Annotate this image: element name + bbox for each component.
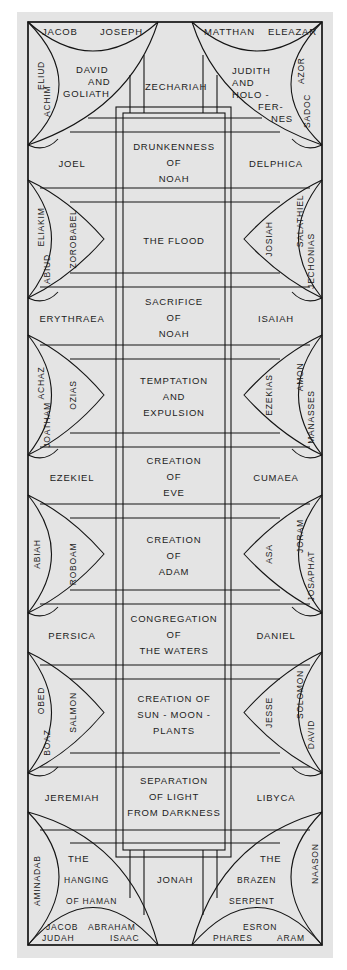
ancestor-label: SALMON bbox=[68, 692, 78, 733]
ceiling-panel-label: SACRIFICE bbox=[145, 296, 203, 307]
scene-label: AND bbox=[232, 77, 254, 88]
ancestor-label: EZEKIAS bbox=[264, 374, 274, 416]
ancestor-label: JECHONIAS bbox=[306, 233, 316, 289]
spandrel-edge bbox=[292, 292, 322, 301]
ancestor-label: DAVID bbox=[306, 720, 316, 749]
scene-label: HOLO - bbox=[232, 89, 270, 100]
spandrel-edge bbox=[28, 449, 58, 458]
ceiling-panel-label: FROM DARKNESS bbox=[127, 807, 220, 818]
prophet-sibyl-label: PERSICA bbox=[48, 630, 95, 641]
ancestor-label: ABIAH bbox=[32, 539, 42, 569]
ceiling-panel-label: OF bbox=[167, 629, 182, 640]
spandrel-edge bbox=[292, 767, 322, 776]
ceiling-panel-label: ADAM bbox=[159, 566, 190, 577]
ceiling-panel-label: NOAH bbox=[159, 328, 190, 339]
ancestor-label: NAASON bbox=[310, 843, 320, 884]
ancestor-label: JOSIAH bbox=[264, 221, 274, 257]
prophet-jonah: JONAH bbox=[157, 874, 193, 885]
ancestor-label: OZIAS bbox=[68, 380, 78, 410]
ancestor-label: SOLOMON bbox=[295, 670, 305, 719]
prophet-sibyl-label: DELPHICA bbox=[249, 158, 303, 169]
prophet-zechariah: ZECHARIAH bbox=[145, 81, 207, 92]
scene-label: GOLIATH bbox=[63, 88, 110, 99]
bay-texts: DRUNKENNESSOFNOAHJOELDELPHICATHE FLOODEL… bbox=[32, 141, 316, 818]
ancestor-label: ACHIM bbox=[42, 86, 52, 117]
prophet-sibyl-label: JOEL bbox=[59, 158, 86, 169]
prophet-sibyl-label: JEREMIAH bbox=[45, 792, 99, 803]
ceiling-panel-label: OF bbox=[167, 471, 182, 482]
spandrel-edge bbox=[28, 292, 58, 301]
ancestor-label: MANASSES bbox=[306, 390, 316, 444]
ceiling-panel-label: EXPULSION bbox=[143, 407, 205, 418]
ancestor-label: ELEAZAR bbox=[268, 26, 317, 37]
ancestor-label: BOAZ bbox=[42, 729, 52, 755]
spandrel-edge bbox=[292, 607, 322, 616]
scene-label: NES bbox=[271, 113, 293, 124]
ancestor-label: OBED bbox=[36, 687, 46, 714]
ceiling-panel-label: SUN - MOON - bbox=[137, 709, 210, 720]
ancestor-label: MATTHAN bbox=[204, 26, 255, 37]
ceiling-panel-label: NOAH bbox=[159, 173, 190, 184]
ancestor-label: AMON bbox=[295, 363, 305, 392]
ceiling-panel-label: SEPARATION bbox=[140, 775, 208, 786]
spandrel-edge bbox=[292, 449, 322, 458]
ancestor-label: ELIAKIM bbox=[36, 207, 46, 246]
ancestor-label: AMINADAB bbox=[32, 855, 42, 906]
ancestor-label: ACHAZ bbox=[36, 367, 46, 400]
scene-label: THE bbox=[68, 853, 89, 864]
prophet-sibyl-label: ERYTHRAEA bbox=[39, 313, 104, 324]
ancestor-label: JUDAH bbox=[42, 933, 74, 943]
scene-label: FER- bbox=[258, 101, 283, 112]
ancestor-label: ISAAC bbox=[110, 933, 140, 943]
spandrel-edge bbox=[28, 607, 58, 616]
ceiling-panel-label: OF bbox=[167, 550, 182, 561]
prophet-sibyl-label: LIBYCA bbox=[257, 792, 296, 803]
ceiling-plan-diagram: JACOB JOSEPH DAVID AND GOLIATH ELIUD ACH… bbox=[0, 0, 347, 970]
ancestor-label: JOATHAM bbox=[42, 402, 52, 448]
prophet-sibyl-label: EZEKIEL bbox=[50, 472, 95, 483]
ceiling-panel-label: CREATION bbox=[147, 534, 202, 545]
scene-label: JUDITH bbox=[232, 65, 271, 76]
scene-label: AND bbox=[88, 76, 110, 87]
ancestor-label: ZOROBABEL bbox=[68, 209, 78, 268]
ancestor-label: JESSE bbox=[264, 697, 274, 728]
ceiling-panel-label: DRUNKENNESS bbox=[133, 141, 215, 152]
ancestor-label: AZOR bbox=[296, 57, 306, 84]
ceiling-panel-label: OF bbox=[167, 157, 182, 168]
ancestor-label: ARAM bbox=[277, 933, 305, 943]
scene-label: SERPENT bbox=[229, 896, 275, 906]
ancestor-label: PHARES bbox=[213, 933, 253, 943]
scene-label: BRAZEN bbox=[237, 875, 276, 885]
bottom-texts: THE HANGING OF HAMAN AMINADAB JACOB ABRA… bbox=[32, 843, 320, 943]
ceiling-panel-label: OF LIGHT bbox=[149, 791, 199, 802]
ancestor-label: JOSEPH bbox=[100, 26, 143, 37]
ancestor-label: SADOC bbox=[302, 94, 312, 128]
prophet-sibyl-label: ISAIAH bbox=[258, 313, 294, 324]
prophet-sibyl-label: DANIEL bbox=[256, 630, 295, 641]
scene-label: DAVID bbox=[76, 64, 108, 75]
ceiling-panel-label: THE WATERS bbox=[139, 645, 208, 656]
ancestor-label: ABRAHAM bbox=[88, 922, 136, 932]
ceiling-panel-label: THE FLOOD bbox=[143, 235, 205, 246]
ancestor-label: ASA bbox=[264, 544, 274, 563]
ceiling-panel-label: CREATION bbox=[147, 455, 202, 466]
scene-label: HANGING bbox=[64, 875, 109, 885]
ancestor-label: ESRON bbox=[243, 922, 277, 932]
ancestor-label: ABIUD bbox=[42, 254, 52, 284]
ceiling-panel-label: EVE bbox=[163, 487, 184, 498]
throne-lines bbox=[130, 55, 217, 915]
scene-label: THE bbox=[260, 853, 281, 864]
central-frame-outer bbox=[116, 107, 231, 857]
ancestor-label: JACOB bbox=[42, 26, 78, 37]
ceiling-panel-label: PLANTS bbox=[153, 725, 195, 736]
ceiling-panel-label: OF bbox=[167, 312, 182, 323]
scene-label: OF HAMAN bbox=[66, 896, 117, 906]
ancestor-label: SALATHIEL bbox=[295, 195, 305, 247]
spandrel-edge bbox=[28, 767, 58, 776]
ancestor-label: JACOB bbox=[46, 922, 78, 932]
ceiling-panel-label: CREATION OF bbox=[137, 693, 210, 704]
ancestor-label: ROBOAM bbox=[68, 543, 78, 586]
ancestor-label: JOSAPHAT bbox=[306, 551, 316, 602]
prophet-sibyl-label: CUMAEA bbox=[253, 472, 298, 483]
ceiling-panel-label: AND bbox=[163, 391, 185, 402]
